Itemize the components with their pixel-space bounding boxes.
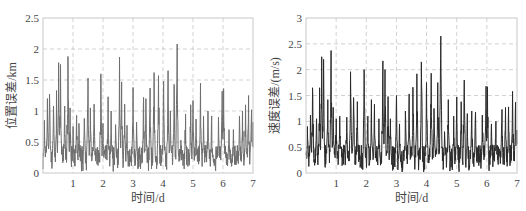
x-tick-label: 4	[424, 177, 430, 189]
error-series-line	[306, 36, 517, 172]
y-tick-label: 2	[297, 64, 303, 76]
x-tick-label: 7	[250, 177, 256, 189]
y-tick-label: 1.5	[25, 74, 39, 86]
velocity-error-plot: 123456700.511.522.53时间/d速度误差/(m/s)	[263, 0, 526, 211]
x-tick-labels: 1234567	[333, 177, 520, 189]
x-tick-label: 7	[514, 177, 520, 189]
x-tick-label: 4	[160, 177, 166, 189]
x-tick-label: 5	[190, 177, 196, 189]
x-tick-label: 6	[484, 177, 490, 189]
x-tick-label: 3	[130, 177, 136, 189]
position-error-chart: 123456700.511.522.5时间/d位置误差/km	[0, 0, 263, 211]
y-axis-title: 速度误差/(m/s)	[267, 57, 282, 134]
y-tick-label: 1.5	[288, 90, 302, 102]
y-tick-label: 2.5	[25, 12, 39, 24]
y-tick-label: 0	[297, 167, 303, 179]
x-tick-label: 2	[100, 177, 106, 189]
x-tick-labels: 1234567	[70, 177, 256, 189]
y-tick-label: 1	[34, 105, 40, 117]
y-tick-label: 0	[34, 167, 40, 179]
error-series-line	[43, 44, 253, 171]
x-tick-label: 3	[394, 177, 400, 189]
x-tick-label: 1	[333, 177, 339, 189]
x-axis-title: 时间/d	[131, 191, 164, 205]
x-tick-label: 6	[220, 177, 226, 189]
velocity-error-chart: 123456700.511.522.53时间/d速度误差/(m/s)	[263, 0, 526, 211]
y-tick-label: 0.5	[288, 141, 302, 153]
x-tick-label: 2	[364, 177, 370, 189]
y-tick-labels: 00.511.522.5	[25, 12, 39, 179]
y-tick-label: 2	[34, 43, 40, 55]
y-tick-label: 0.5	[25, 136, 39, 148]
y-tick-label: 2.5	[288, 38, 302, 50]
y-tick-label: 3	[297, 12, 303, 24]
y-tick-labels: 00.511.522.53	[288, 12, 302, 179]
x-tick-label: 1	[70, 177, 76, 189]
position-error-plot: 123456700.511.522.5时间/d位置误差/km	[0, 0, 263, 211]
x-axis-title: 时间/d	[395, 191, 428, 205]
y-tick-label: 1	[297, 115, 303, 127]
x-tick-label: 5	[454, 177, 460, 189]
y-axis-title: 位置误差/km	[4, 62, 19, 129]
